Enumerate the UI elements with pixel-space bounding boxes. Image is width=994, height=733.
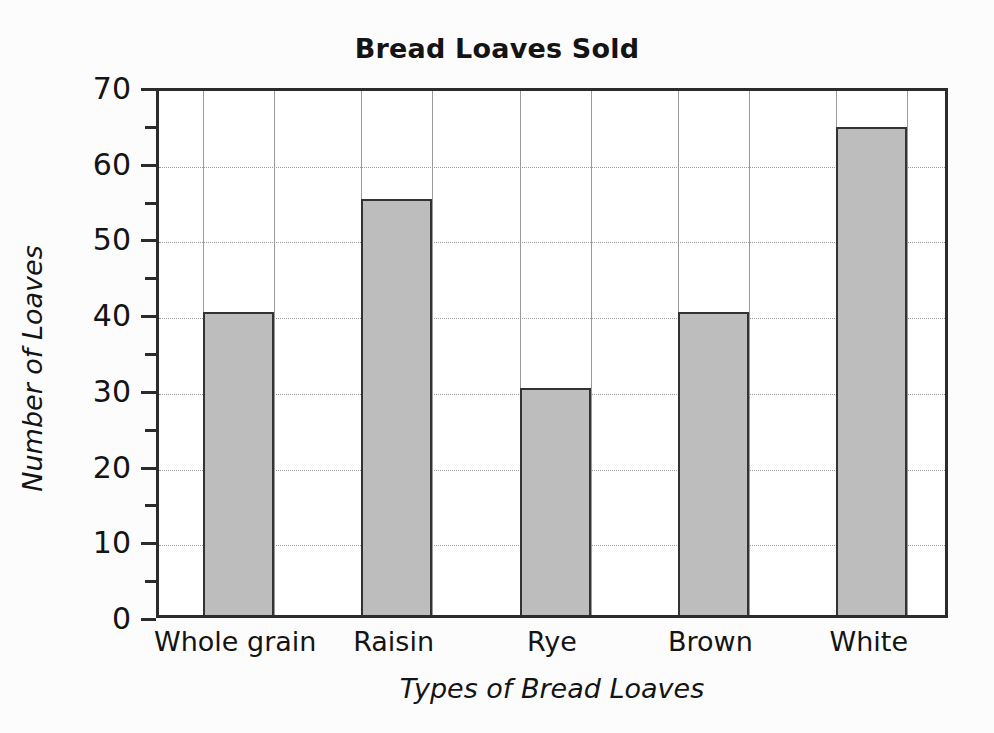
bar [836, 127, 907, 615]
bar-chart: Bread Loaves Sold Number of Loaves 01020… [0, 0, 994, 733]
gridline-vertical [432, 91, 433, 615]
plot-area [156, 88, 948, 618]
y-tick-label: 30 [11, 373, 131, 408]
y-tick-major [141, 164, 156, 167]
bar [203, 312, 274, 615]
y-tick-major [141, 391, 156, 394]
y-tick-minor [145, 580, 156, 583]
y-tick-minor [145, 126, 156, 129]
y-tick-major [141, 315, 156, 318]
gridline-horizontal [159, 318, 945, 319]
y-tick-label: 70 [11, 71, 131, 106]
chart-title: Bread Loaves Sold [0, 33, 994, 64]
y-tick-major [141, 542, 156, 545]
y-tick-label: 10 [11, 525, 131, 560]
y-tick-minor [145, 429, 156, 432]
y-tick-minor [145, 202, 156, 205]
y-tick-major [141, 618, 156, 621]
gridline-horizontal [159, 242, 945, 243]
x-tick-label: Whole grain [154, 626, 316, 657]
y-tick-label: 50 [11, 222, 131, 257]
y-tick-major [141, 239, 156, 242]
x-tick-label: Rye [527, 626, 577, 657]
y-tick-label: 60 [11, 146, 131, 181]
gridline-vertical [749, 91, 750, 615]
bar [678, 312, 749, 615]
y-tick-major [141, 88, 156, 91]
bar [361, 199, 432, 615]
y-tick-label: 20 [11, 449, 131, 484]
x-tick-label: Raisin [353, 626, 434, 657]
y-tick-major [141, 467, 156, 470]
bar [520, 388, 591, 615]
y-tick-label: 40 [11, 298, 131, 333]
x-axis-title: Types of Bread Loaves [156, 673, 948, 704]
x-tick-label: Brown [668, 626, 753, 657]
gridline-vertical [907, 91, 908, 615]
gridline-vertical [274, 91, 275, 615]
y-tick-minor [145, 277, 156, 280]
y-tick-minor [145, 353, 156, 356]
gridline-vertical [591, 91, 592, 615]
y-tick-minor [145, 504, 156, 507]
y-tick-label: 0 [11, 601, 131, 636]
x-tick-label: White [830, 626, 909, 657]
gridline-horizontal [159, 167, 945, 168]
